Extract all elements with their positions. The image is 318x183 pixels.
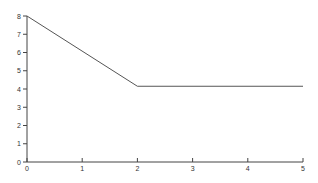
y-tick-label: 3: [17, 104, 21, 111]
y-tick-label: 5: [17, 67, 21, 74]
y-tick-label: 1: [17, 140, 21, 147]
line-chart: 012345678 012345: [0, 0, 318, 183]
y-tick-label: 0: [17, 159, 21, 166]
x-tick-label: 5: [301, 165, 305, 172]
x-tick-label: 2: [135, 165, 139, 172]
x-tick-label: 3: [191, 165, 195, 172]
x-axis-ticks: 012345: [25, 158, 305, 172]
series-layer: [27, 16, 303, 86]
y-tick-label: 6: [17, 49, 21, 56]
y-tick-label: 7: [17, 31, 21, 38]
y-tick-label: 4: [17, 86, 21, 93]
y-axis-ticks: 012345678: [17, 13, 27, 166]
x-tick-label: 4: [246, 165, 250, 172]
y-tick-label: 2: [17, 122, 21, 129]
y-tick-label: 8: [17, 13, 21, 20]
x-tick-label: 1: [80, 165, 84, 172]
x-tick-label: 0: [25, 165, 29, 172]
series-line: [27, 16, 303, 86]
